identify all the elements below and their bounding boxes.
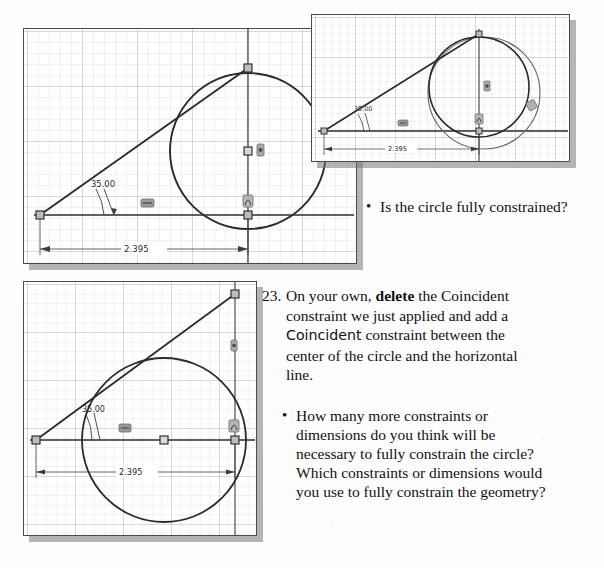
step-seg-3: the Coincident — [414, 287, 509, 304]
tangent-constraint-icon[interactable] — [475, 114, 483, 124]
angle-dimension-arc — [96, 189, 104, 215]
question-text: Is the circle fully constrained? — [380, 197, 596, 216]
inclined-line[interactable] — [324, 34, 479, 131]
angle-leader-line — [94, 413, 100, 440]
angle-arrow-head — [111, 208, 117, 215]
question-bullet-more-constraints: • How many more constraints or dimension… — [282, 406, 594, 501]
angle-leader-line — [365, 113, 370, 131]
bullet-marker: • — [282, 406, 296, 424]
inclined-line[interactable] — [36, 294, 235, 440]
coincident-constraint-icon[interactable] — [257, 144, 264, 156]
tangent-constraint-icon[interactable] — [229, 420, 239, 432]
endpoint-handle-origin[interactable] — [321, 128, 327, 134]
q2-line-4: Which constraints or dimensions would — [296, 464, 542, 481]
endpoint-handle-bottom[interactable] — [244, 211, 252, 219]
endpoint-handle-line-top[interactable] — [476, 31, 482, 37]
step-line-2: constraint we just applied and add a — [286, 307, 508, 324]
sketch-geometry-bottom-left: 35.00 2.395 — [24, 282, 256, 535]
sketch-geometry-top-left: 35.00 2.395 — [24, 29, 356, 263]
endpoint-handle-line-top[interactable] — [244, 64, 252, 72]
sketch-geometry-top-right: 35.00 2.395 — [312, 15, 569, 161]
step-line-5: line. — [286, 366, 313, 383]
endpoint-handle-origin[interactable] — [36, 211, 44, 219]
endpoint-handle-line-top[interactable] — [231, 290, 239, 298]
endpoint-handle-bottom[interactable] — [476, 128, 482, 134]
angle-dimension-label[interactable]: 35.00 — [91, 179, 115, 189]
endpoint-handle-origin[interactable] — [32, 436, 40, 444]
step-body: On your own, delete the Coincident const… — [286, 286, 562, 385]
step-delete-keyword: delete — [376, 287, 415, 304]
angle-dimension-label[interactable]: 35.00 — [82, 405, 105, 414]
step-line-3-rest: constraint between the — [362, 326, 505, 343]
angle-dimension-arc — [358, 114, 364, 131]
dim-arrow-left — [40, 246, 50, 252]
step-line-4: center of the circle and the horizontal — [286, 347, 518, 364]
question-bullet-constrained: • Is the circle fully constrained? — [366, 197, 596, 216]
dim-arrow-right — [238, 246, 248, 252]
horizontal-constraint-icon[interactable] — [141, 199, 154, 207]
coincident-constraint-icon[interactable] — [231, 340, 237, 351]
dim-arrow-left — [36, 470, 45, 475]
circle-center-handle[interactable] — [244, 147, 252, 155]
dim-arrow-left — [324, 147, 332, 151]
dim-arrow-right — [471, 147, 479, 151]
q2-line-2: dimensions do you think will be — [296, 426, 495, 443]
step-23-block: 23. On your own, delete the Coincident c… — [262, 286, 562, 385]
q2-line-3: necessary to fully constrain the circle? — [296, 445, 534, 462]
step-coincident-keyword: Coincident — [286, 327, 362, 343]
endpoint-handle-bottom[interactable] — [231, 436, 239, 444]
tangent-constraint-icon[interactable] — [243, 195, 253, 207]
cad-panel-top-left[interactable]: 35.00 2.395 — [23, 28, 357, 264]
dim-arrow-right — [226, 470, 235, 475]
angle-dimension-label[interactable]: 35.00 — [354, 105, 372, 113]
bullet-marker: • — [366, 197, 380, 215]
coincident-constraint-icon[interactable] — [484, 81, 490, 91]
cad-panel-bottom-left[interactable]: 35.00 2.395 — [23, 281, 257, 536]
question-text: How many more constraints or dimensions … — [296, 406, 594, 501]
cad-panel-top-right-inset[interactable]: 35.00 2.395 — [311, 14, 570, 162]
step-seg-1: On your own, — [286, 287, 376, 304]
angle-dimension-arc — [86, 414, 92, 440]
sketch-circle-original[interactable] — [428, 37, 540, 149]
circle-center-handle[interactable] — [160, 436, 168, 444]
inclined-line[interactable] — [40, 68, 248, 215]
horizontal-constraint-icon[interactable] — [119, 424, 131, 432]
horizontal-constraint-icon[interactable] — [398, 120, 408, 126]
q2-line-5: you use to fully constrain the geometry? — [296, 483, 546, 500]
step-number: 23. — [262, 286, 286, 306]
linear-dimension-label[interactable]: 2.395 — [388, 145, 407, 153]
linear-dimension-label[interactable]: 2.395 — [124, 244, 149, 254]
linear-dimension-label[interactable]: 2.395 — [119, 467, 142, 477]
q2-line-1: How many more constraints or — [296, 407, 488, 424]
